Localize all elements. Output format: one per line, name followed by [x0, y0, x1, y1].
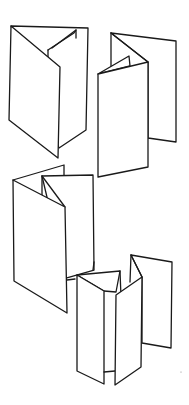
accordion-bottom-drawing — [77, 255, 172, 385]
connector-line — [67, 279, 75, 280]
bottom-gap-line — [104, 371, 115, 372]
folded-brochures-sketch — [0, 0, 189, 405]
front-panel — [98, 62, 148, 177]
gatefold-top-right-drawing — [98, 33, 176, 177]
illustration-canvas: Black line sketch of four folded paper b… — [0, 0, 189, 405]
front-right-panel — [115, 277, 142, 385]
trifold-top-left-drawing — [9, 26, 88, 158]
rear-left-edge — [130, 255, 131, 282]
stray-dot — [180, 371, 181, 372]
front-left-panel — [77, 275, 104, 384]
